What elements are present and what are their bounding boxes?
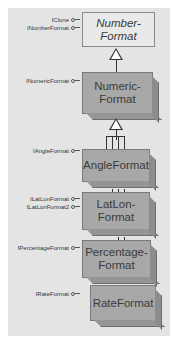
class-numberformat: Number- Format bbox=[82, 12, 155, 47]
interface-ianbleformat: IAngleFormat bbox=[33, 147, 80, 154]
interface-ilatlonformat: ILatLonFormat bbox=[30, 195, 80, 202]
interface-ipercentageformat: IPercentageFormat bbox=[18, 244, 80, 251]
interface-inumberformat: INumberFormat bbox=[27, 24, 80, 31]
interface-irateformat: IRateFormat bbox=[36, 290, 80, 297]
class-rateformat: RateFormat bbox=[90, 285, 156, 321]
interface-iclone: IClone bbox=[52, 16, 80, 23]
inheritance-line bbox=[116, 60, 117, 72]
interface-inumericformat: INumericFormat bbox=[26, 77, 80, 84]
class-latlonformat: LatLon- Format bbox=[82, 192, 150, 230]
class-angleformat: AngleFormat bbox=[82, 149, 150, 182]
interface-ilatlonformat2: ILatLonFormat2 bbox=[27, 203, 80, 210]
class-percentageformat: Percentage- Format bbox=[82, 240, 151, 278]
class-numericformat: Numeric- Format bbox=[82, 72, 153, 114]
